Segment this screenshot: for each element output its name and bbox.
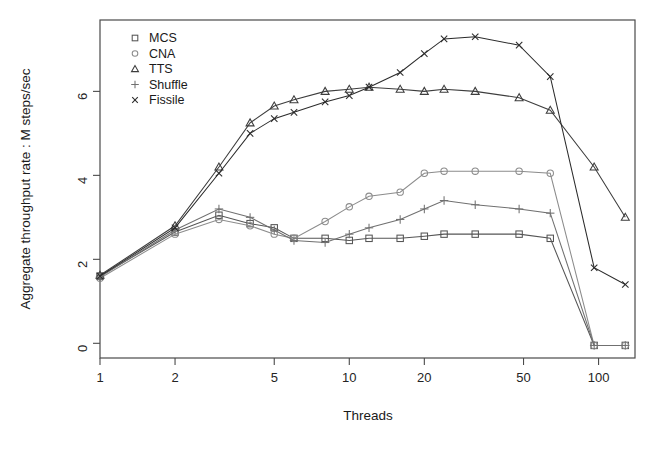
x-tick-label: 1 (96, 370, 103, 385)
legend-label-tts: TTS (149, 62, 173, 76)
data-point-cross (346, 92, 352, 98)
y-axis-title: Aggregate throughput rate : M steps/sec (18, 68, 33, 309)
x-tick-label: 50 (516, 370, 530, 385)
series-line-shuffle (100, 201, 625, 346)
legend-label-mcs: MCS (149, 31, 177, 45)
x-tick-label: 100 (588, 370, 610, 385)
data-point-cross (397, 69, 403, 75)
data-point-plus (131, 81, 139, 89)
series-line-mcs (100, 215, 625, 345)
data-point-cross (132, 97, 138, 103)
data-point-plus (365, 224, 373, 232)
throughput-line-chart: 125102050100 0246 MCSCNATTSShuffleFissil… (0, 0, 665, 454)
x-axis-title: Threads (343, 408, 393, 423)
data-point-cross (622, 281, 628, 287)
legend-label-shuffle: Shuffle (149, 78, 188, 92)
chart-figure: 125102050100 0246 MCSCNATTSShuffleFissil… (0, 0, 665, 454)
data-point-plus (396, 215, 404, 223)
legend-label-fissile: Fissile (149, 93, 184, 107)
chart-legend: MCSCNATTSShuffleFissile (131, 31, 188, 107)
data-point-cross (291, 109, 297, 115)
series-tts (96, 83, 629, 278)
data-point-cross (421, 50, 427, 56)
series-mcs (97, 212, 629, 349)
data-point-plus (471, 201, 479, 209)
series-shuffle (96, 196, 630, 349)
y-tick-label: 0 (75, 345, 90, 352)
x-tick-label: 5 (271, 370, 278, 385)
data-point-plus (440, 196, 448, 204)
legend-label-cna: CNA (149, 47, 176, 61)
data-point-square (132, 35, 138, 41)
y-tick-label: 4 (75, 177, 90, 184)
series-fissile (97, 34, 629, 288)
y-tick-label: 6 (75, 93, 90, 100)
data-point-plus (546, 209, 554, 217)
data-point-plus (515, 205, 523, 213)
data-point-cross (322, 99, 328, 105)
y-axis-ticks: 0246 (75, 91, 100, 352)
x-tick-label: 20 (417, 370, 431, 385)
data-point-plus (420, 205, 428, 213)
data-point-cross (271, 115, 277, 121)
series-line-fissile (100, 37, 625, 285)
data-point-cross (216, 170, 222, 176)
data-point-triangle (132, 66, 139, 72)
series-line-cna (100, 171, 625, 345)
y-tick-label: 2 (75, 261, 90, 268)
series-cna (97, 168, 629, 349)
x-tick-label: 2 (171, 370, 178, 385)
x-axis-ticks: 125102050100 (96, 358, 609, 385)
x-tick-label: 10 (342, 370, 356, 385)
data-point-circle (132, 51, 138, 57)
series-line-tts (100, 87, 625, 275)
data-point-cross (247, 130, 253, 136)
